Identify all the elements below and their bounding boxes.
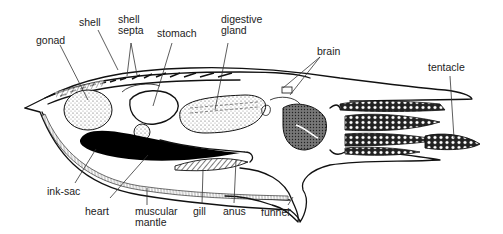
label-gill: gill bbox=[193, 206, 206, 217]
label-ink-sac: ink-sac bbox=[47, 186, 80, 197]
gill bbox=[175, 159, 248, 171]
tentacle bbox=[425, 134, 480, 150]
label-tentacle: tentacle bbox=[428, 62, 465, 73]
label-heart: heart bbox=[85, 206, 109, 217]
label-funnel: funnel bbox=[261, 207, 290, 218]
label-shell-septa: shell septa bbox=[118, 14, 144, 36]
label-anus: anus bbox=[223, 206, 246, 217]
label-stomach: stomach bbox=[157, 28, 197, 39]
label-brain: brain bbox=[317, 46, 340, 57]
label-gonad: gonad bbox=[36, 35, 65, 46]
digestive-gland bbox=[180, 95, 266, 133]
label-muscular-mantle: muscular mantle bbox=[135, 206, 178, 228]
brain bbox=[262, 87, 327, 150]
gonad bbox=[64, 90, 112, 130]
label-digestive-gland: digestive gland bbox=[221, 14, 262, 36]
ink-sac bbox=[80, 131, 240, 161]
label-shell: shell bbox=[79, 17, 101, 28]
